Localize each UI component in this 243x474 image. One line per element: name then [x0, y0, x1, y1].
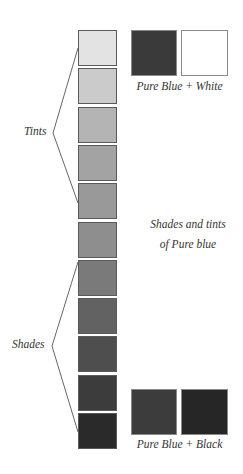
color-block-tint	[78, 145, 117, 181]
diagram-title-line-2: of Pure blue	[138, 238, 238, 250]
color-block-shade	[78, 298, 117, 334]
caption-pure-blue-black: Pure Blue + Black	[131, 438, 228, 450]
swatch-black	[181, 389, 228, 435]
swatch-pure-blue	[131, 389, 177, 435]
swatch-pure-blue-white	[131, 30, 228, 76]
color-block-shade	[78, 375, 117, 411]
swatch-pure-blue-black	[131, 389, 228, 435]
color-block-shade	[78, 260, 117, 296]
tints-bracket	[53, 48, 78, 203]
caption-pure-blue-white: Pure Blue + White	[131, 80, 228, 92]
swatch-white	[181, 30, 228, 76]
color-block-shade	[78, 222, 117, 258]
color-block-tint	[78, 107, 117, 143]
color-block-tint	[78, 30, 117, 66]
color-block-tint	[78, 183, 117, 219]
shades-bracket	[52, 262, 78, 432]
shades-label: Shades	[12, 338, 45, 350]
color-block-shade	[78, 413, 117, 449]
color-block-shade	[78, 336, 117, 372]
color-gradient-column	[78, 30, 117, 451]
color-block-tint	[78, 68, 117, 104]
swatch-pure-blue	[131, 30, 177, 76]
diagram-title-line-1: Shades and tints	[138, 218, 238, 230]
tints-label: Tints	[24, 125, 46, 137]
